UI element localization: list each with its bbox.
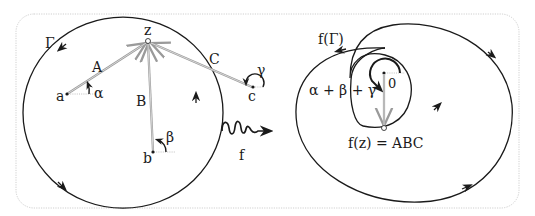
label-f-gamma: f(Γ) <box>318 31 344 47</box>
winding-number-diagram: Γ z A B C a b c α β γ f <box>0 0 535 216</box>
point-a <box>65 92 68 95</box>
gamma-arrow-icon <box>60 44 66 49</box>
label-vector-A: A <box>91 59 103 75</box>
label-beta: β <box>166 129 174 145</box>
figure-frame <box>16 14 519 208</box>
label-z: z <box>144 22 151 38</box>
map-f: f <box>222 121 268 163</box>
label-vector-B: B <box>136 93 146 109</box>
label-point-c: c <box>248 88 256 104</box>
vector-B <box>148 44 153 151</box>
label-origin: 0 <box>388 76 396 91</box>
squiggle-arrow-icon <box>222 121 268 133</box>
vector-C <box>151 43 252 87</box>
image-curve-f-gamma <box>296 24 512 202</box>
label-point-a: a <box>56 88 64 104</box>
label-vector-C: C <box>209 51 220 67</box>
f-gamma-arrow-icon <box>338 49 346 51</box>
angle-alpha-arc <box>88 84 89 94</box>
label-gamma-curve: Γ <box>45 35 55 51</box>
vector-A <box>67 43 146 94</box>
f-gamma-arrow-icon <box>434 105 439 110</box>
label-alpha: α <box>94 85 104 101</box>
right-panel: f(Γ) 0 α + β + γ f(z) = ABC <box>296 24 512 202</box>
label-angle-sum: α + β + γ <box>309 82 376 98</box>
label-gamma: γ <box>257 62 265 78</box>
point-z-marker <box>146 39 151 44</box>
left-panel: Γ z A B C a b c α β γ <box>23 17 265 208</box>
f-gamma-arrow-icon <box>462 186 469 189</box>
label-point-b: b <box>143 150 152 166</box>
label-fz-abc: f(z) = ABC <box>348 135 423 151</box>
label-f: f <box>239 147 246 163</box>
angle-beta-arc <box>158 140 166 152</box>
point-fz-marker <box>382 126 387 131</box>
